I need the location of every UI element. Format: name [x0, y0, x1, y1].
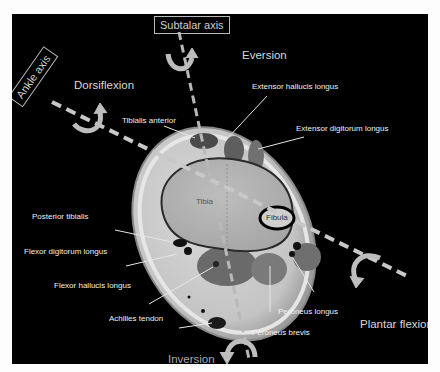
- fibula-label: Fibula: [266, 214, 288, 222]
- peroneus-brevis-label: Peroneus brevis: [252, 329, 310, 337]
- plantar-flexion-label: Plantar flexion: [360, 319, 428, 331]
- peroneus-longus-label: Peroneus longus: [278, 308, 338, 316]
- extensor-hallucis-longus-label: Extensor hallucis longus: [252, 83, 338, 91]
- achilles-tendon-label: Achilles tendon: [109, 315, 163, 323]
- ankle-cross-section-illustration: [12, 14, 428, 364]
- inversion-arrow-icon: [220, 341, 255, 364]
- posterior-tibialis-label: Posterior tibialis: [32, 213, 88, 221]
- dorsiflexion-label: Dorsiflexion: [74, 80, 134, 92]
- flexor-hallucis-longus-label: Flexor hallucis longus: [54, 282, 131, 290]
- inversion-label: Inversion: [168, 354, 215, 364]
- subtalar-axis-label: Subtalar axis: [154, 16, 230, 34]
- flexor-digitorum-longus-label: Flexor digitorum longus: [24, 248, 107, 256]
- extensor-digitorum-longus-label: Extensor digitorum longus: [296, 125, 389, 133]
- mri-diagram-panel: Subtalar axis Ankle axis Eversion Dorsif…: [12, 14, 428, 364]
- tibia-label: Tibia: [196, 198, 213, 206]
- eversion-label: Eversion: [242, 50, 287, 62]
- tibialis-anterior-label: Tibialis anterior: [122, 117, 176, 125]
